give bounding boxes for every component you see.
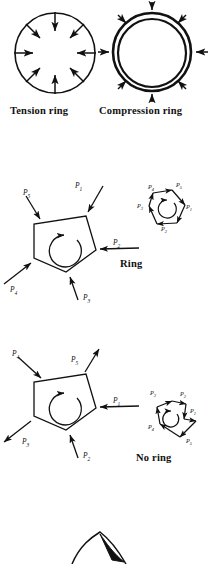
ring-force-P1-arrow (88, 186, 103, 212)
ring-poly-label-P5: P5 (176, 181, 182, 190)
ring-label-P3: P3 (83, 293, 90, 304)
no-ring-poly-label-P3: P3 (150, 389, 156, 398)
ring-poly-label-P3: P3 (137, 202, 143, 211)
tension-ring-figure (14, 12, 96, 94)
ring-force-P4-arrow (4, 263, 31, 284)
ring-pentagon-body (34, 216, 96, 272)
ring-label-P2: P2 (113, 238, 120, 249)
bottom-partial-arch (72, 532, 126, 564)
no-ring-force-P2-arrow (70, 435, 78, 458)
ring-poly-label-P1: P1 (186, 203, 192, 212)
ring-label-P5: P5 (23, 188, 30, 199)
ring-poly-label-P4: P4 (148, 183, 154, 192)
compression-ring-inner-circle (118, 19, 186, 87)
ring-force-P5-arrow (26, 196, 40, 219)
ring-force-polygon-figure (149, 190, 185, 224)
diagram-sheet: Tension ring Compression ring Ring No ri… (0, 0, 210, 564)
no-ring-case-label: No ring (136, 452, 172, 463)
ring-poly-label-P2: P2 (161, 225, 167, 234)
no-ring-poly-label-P1: P1 (190, 407, 196, 416)
ring-force-P3-arrow (70, 277, 78, 300)
no-ring-poly-label-P2: P2 (180, 390, 186, 399)
no-ring-pentagon-body (34, 374, 96, 430)
ring-internal-moment-arrow (49, 235, 81, 267)
no-ring-label-P3: P3 (22, 437, 29, 448)
no-ring-internal-moment-arrow (49, 393, 81, 425)
compression-ring-label: Compression ring (99, 105, 182, 116)
no-ring-poly-label-P4: P4 (148, 423, 154, 432)
no-ring-force-P5-arrow (85, 349, 99, 372)
ring-label-P4: P4 (10, 285, 17, 296)
ring-label-P1: P1 (75, 181, 82, 192)
tension-ring-label: Tension ring (10, 105, 68, 116)
ring-case-label: Ring (120, 258, 142, 269)
no-ring-label-P4: P4 (12, 349, 19, 360)
no-ring-force-polygon-moment-arrow (163, 411, 179, 427)
ring-force-polygon-moment-arrow (158, 200, 176, 218)
tension-ring-arrows (14, 12, 96, 94)
arch-shade (100, 534, 124, 562)
no-ring-force-P4-arrow (18, 357, 41, 378)
no-ring-label-P2: P2 (83, 451, 90, 462)
diagram-canvas (0, 0, 210, 564)
compression-ring-figure (98, 2, 208, 102)
no-ring-poly-label-P5: P5 (186, 437, 192, 446)
no-ring-label-P1: P1 (113, 396, 120, 407)
no-ring-label-P5: P5 (71, 355, 78, 366)
ring-force-polygon-edges (149, 190, 185, 224)
compression-ring-outer-circle (113, 13, 191, 91)
